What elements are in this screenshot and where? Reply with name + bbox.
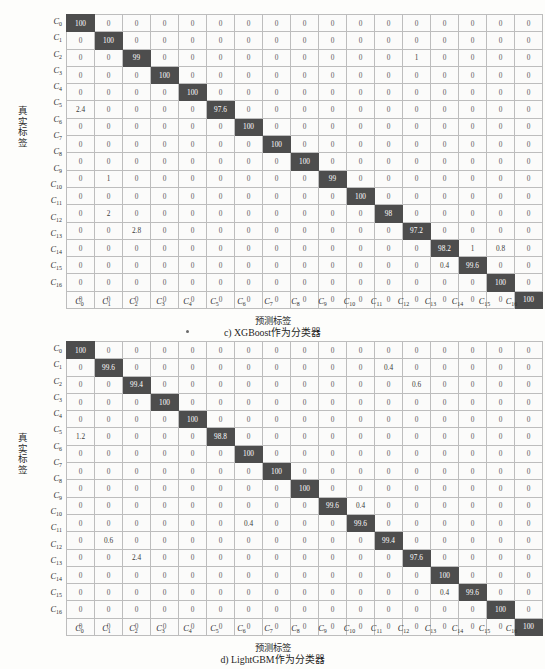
figure-caption-xgboost: c) XGBoost作为分类器 [0,325,545,339]
matrix-cell-C5-C6: 0 [235,101,263,118]
matrix-cell-C5-C14: 0 [459,428,487,445]
matrix-cell-C8-C10: 0 [347,480,375,497]
matrix-cell-C13-C12: 0 [403,566,431,583]
matrix-cell-C5-C15: 0 [487,101,515,118]
matrix-cell-C7-C11: 0 [375,136,403,153]
matrix-cell-C8-C14: 0 [459,153,487,170]
matrix-cell-C14-C11: 0 [375,584,403,601]
matrix-cell-C13-C15: 0 [487,566,515,583]
matrix-cell-C9-C5: 0 [207,497,235,514]
matrix-cell-C5-C5: 98.8 [207,428,235,445]
matrix-cell-C6-C11: 0 [375,118,403,135]
matrix-cell-C12-C7: 0 [263,549,291,566]
matrix-row: 020000000009800000 [67,205,543,222]
matrix-cell-C3-C5: 0 [207,393,235,410]
x-tick-label-C8: C8 [282,297,309,306]
matrix-cell-C2-C9: 0 [319,376,347,393]
matrix-cell-C10-C13: 0 [431,187,459,204]
matrix-cell-C13-C14: 1 [459,239,487,256]
matrix-cell-C1-C6: 0 [235,359,263,376]
matrix-cell-C7-C6: 0 [235,463,263,480]
matrix-cell-C3-C2: 0 [123,66,151,83]
matrix-cell-C12-C10: 0 [347,222,375,239]
matrix-cell-C9-C13: 0 [431,170,459,187]
matrix-cell-C12-C16: 0 [515,222,543,239]
matrix-cell-C9-C12: 0 [403,497,431,514]
matrix-cell-C15-C3: 0 [151,274,179,291]
matrix-cell-C0-C15: 0 [487,15,515,32]
y-tick-label-C9: C9 [40,488,64,504]
matrix-cell-C2-C2: 99.4 [123,376,151,393]
y-axis-label-char: 标 [14,454,32,465]
matrix-cell-C0-C4: 0 [179,15,207,32]
matrix-cell-C5-C10: 0 [347,101,375,118]
y-tick-label-C13: C13 [40,226,64,242]
matrix-cell-C13-C7: 0 [263,566,291,583]
matrix-cell-C11-C5: 0 [207,532,235,549]
matrix-cell-C15-C14: 0 [459,601,487,618]
matrix-cell-C7-C8: 0 [291,463,319,480]
matrix-cell-C13-C15: 0.8 [487,239,515,256]
matrix-cell-C9-C4: 0 [179,170,207,187]
matrix-cell-C3-C4: 0 [179,66,207,83]
matrix-cell-C8-C13: 0 [431,480,459,497]
matrix-cell-C4-C7: 0 [263,411,291,428]
matrix-cell-C15-C5: 0 [207,274,235,291]
matrix-cell-C4-C14: 0 [459,411,487,428]
matrix-cell-C0-C8: 0 [291,15,319,32]
matrix-cell-C5-C8: 0 [291,101,319,118]
matrix-cell-C3-C13: 0 [431,393,459,410]
x-tick-label-C0: C0 [66,297,93,306]
y-tick-label-C3: C3 [40,63,64,79]
matrix-cell-C10-C7: 0 [263,187,291,204]
matrix-cell-C9-C3: 0 [151,497,179,514]
x-tick-label-C13: C13 [417,297,444,306]
x-tick-label-C10: C10 [336,624,363,633]
matrix-cell-C15-C12: 0 [403,274,431,291]
x-tick-label-C9: C9 [309,624,336,633]
matrix-cell-C1-C13: 0 [431,359,459,376]
y-tick-label-C2: C2 [40,47,64,63]
y-axis-label-char: 标 [14,127,32,138]
matrix-cell-C8-C10: 0 [347,153,375,170]
matrix-cell-C9-C11: 0 [375,170,403,187]
matrix-cell-C1-C10: 0 [347,32,375,49]
matrix-row: 0000100000000000000 [67,411,543,428]
matrix-cell-C13-C5: 0 [207,566,235,583]
x-tick-label-C1: C1 [93,297,120,306]
matrix-cell-C2-C6: 0 [235,376,263,393]
matrix-cell-C11-C3: 0 [151,532,179,549]
matrix-cell-C0-C10: 0 [347,15,375,32]
matrix-cell-C10-C2: 0 [123,187,151,204]
y-axis-label-char: 签 [14,465,32,476]
matrix-cell-C15-C16: 0 [515,601,543,618]
matrix-cell-C0-C3: 0 [151,342,179,359]
matrix-cell-C11-C15: 0 [487,205,515,222]
matrix-cell-C13-C0: 0 [67,566,95,583]
matrix-cell-C8-C11: 0 [375,153,403,170]
matrix-cell-C8-C8: 100 [291,480,319,497]
matrix-row: 1.2000098.800000000000 [67,428,543,445]
matrix-cell-C11-C2: 0 [123,205,151,222]
matrix-cell-C8-C3: 0 [151,480,179,497]
matrix-row: 0001000000000000000 [67,66,543,83]
y-tick-label-C4: C4 [40,406,64,422]
matrix-cell-C11-C12: 0 [403,532,431,549]
matrix-row: 002.400000000097.60000 [67,549,543,566]
matrix-cell-C4-C1: 0 [95,84,123,101]
matrix-cell-C11-C4: 0 [179,205,207,222]
matrix-cell-C7-C1: 0 [95,136,123,153]
matrix-cell-C0-C0: 100 [67,342,95,359]
matrix-cell-C14-C13: 0.4 [431,257,459,274]
matrix-cell-C7-C15: 0 [487,463,515,480]
matrix-cell-C2-C15: 0 [487,49,515,66]
matrix-cell-C9-C4: 0 [179,497,207,514]
matrix-cell-C3-C7: 0 [263,66,291,83]
matrix-cell-C13-C10: 0 [347,566,375,583]
matrix-cell-C4-C0: 0 [67,84,95,101]
matrix-cell-C6-C6: 100 [235,445,263,462]
matrix-cell-C1-C9: 0 [319,32,347,49]
figure-caption-lightgbm: d) LightGBM作为分类器 [0,652,545,666]
matrix-cell-C12-C0: 0 [67,222,95,239]
y-tick-label-C3: C3 [40,390,64,406]
